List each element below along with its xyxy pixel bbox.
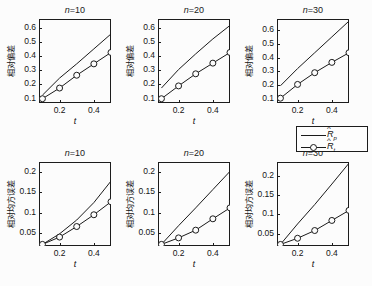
data-point-marker: [329, 59, 335, 65]
chart-panel: n=300.10.20.30.40.50.60.20.4相对偏差t: [241, 5, 353, 127]
chart-panel: n=100.10.20.30.40.50.60.20.4相对偏差t: [3, 5, 115, 127]
plot-area: [3, 5, 135, 129]
data-point-marker: [108, 49, 114, 55]
data-point-marker: [312, 228, 318, 234]
data-point-marker: [91, 212, 97, 218]
data-point-marker: [91, 61, 97, 67]
chart-panel: n=100.050.10.150.20.20.4相对均方误差t: [3, 148, 115, 270]
chart-panel: n=300.050.10.150.20.20.4相对均方误差t: [241, 148, 353, 270]
legend-entry: Rp: [297, 130, 367, 141]
data-point-marker: [57, 234, 63, 240]
data-point-marker: [295, 235, 301, 241]
data-point-marker: [227, 205, 233, 211]
data-point-marker: [295, 81, 301, 87]
plot-area: [122, 148, 254, 272]
plot-area: [241, 148, 372, 272]
data-point-marker: [193, 71, 199, 77]
legend-label-base: R: [327, 141, 334, 151]
data-point-marker: [57, 85, 63, 91]
series-line: [161, 25, 230, 88]
series-line: [161, 208, 230, 245]
plot-area: [241, 5, 372, 129]
data-point-marker: [176, 83, 182, 89]
plot-area: [122, 5, 254, 129]
data-point-marker: [74, 72, 80, 78]
data-point-marker: [158, 96, 164, 102]
data-point-marker: [39, 241, 45, 247]
data-point-marker: [277, 241, 283, 247]
legend-entry: Rt: [297, 142, 367, 153]
data-point-marker: [193, 227, 199, 233]
data-point-marker: [176, 235, 182, 241]
legend: RpRt: [296, 126, 368, 152]
data-point-marker: [346, 207, 352, 213]
data-point-marker: [346, 50, 352, 56]
series-line: [42, 34, 111, 95]
data-point-marker: [277, 95, 283, 101]
data-point-marker: [210, 60, 216, 66]
legend-label: Rt: [327, 141, 335, 153]
plot-area: [3, 148, 135, 272]
series-line: [42, 181, 111, 244]
chart-panel: n=200.10.20.30.40.50.60.20.4相对偏差t: [122, 5, 234, 127]
data-point-marker: [74, 224, 80, 230]
data-point-marker: [329, 217, 335, 223]
legend-label-subscript: p: [334, 135, 337, 141]
legend-marker: [311, 145, 317, 151]
legend-sample-line: [300, 130, 328, 141]
data-point-marker: [227, 49, 233, 55]
legend-sample-line: [300, 142, 328, 153]
data-point-marker: [210, 216, 216, 222]
data-point-marker: [158, 241, 164, 247]
figure-root: n=100.10.20.30.40.50.60.20.4相对偏差tn=200.1…: [0, 0, 372, 286]
data-point-marker: [108, 199, 114, 205]
data-point-marker: [39, 96, 45, 102]
chart-panel: n=200.050.10.150.20.20.4相对均方误差t: [122, 148, 234, 270]
data-point-marker: [312, 70, 318, 76]
